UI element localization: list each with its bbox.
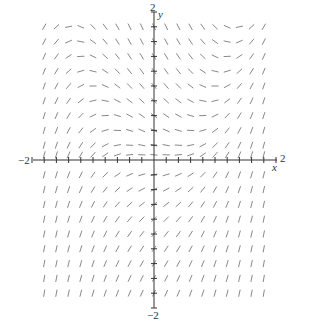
- y-axis-min-label: −2: [147, 310, 159, 321]
- slope-segment: [68, 201, 70, 208]
- slope-segment: [65, 26, 72, 27]
- slope-segment: [251, 260, 252, 267]
- slope-segment: [126, 129, 133, 131]
- slope-segment: [189, 216, 193, 222]
- slope-segment: [176, 202, 181, 207]
- slope-segment: [43, 83, 45, 90]
- slope-segment: [224, 84, 230, 87]
- slope-segment: [263, 127, 265, 134]
- slope-segment: [103, 24, 107, 30]
- slope-segment: [56, 216, 58, 223]
- slope-segment: [56, 290, 57, 297]
- slope-segment: [92, 260, 94, 267]
- x-axis-max-label: 2: [280, 153, 286, 164]
- slope-segment: [116, 231, 120, 237]
- slope-segment: [139, 114, 145, 118]
- slope-segment: [212, 128, 218, 132]
- slope-segment: [43, 201, 45, 208]
- slope-segment: [102, 129, 109, 131]
- slope-segment: [188, 84, 194, 88]
- slope-segment: [114, 173, 120, 177]
- slope-segment: [68, 216, 70, 223]
- slope-segment: [139, 98, 144, 103]
- slope-segment: [79, 152, 83, 158]
- slope-segment: [188, 54, 192, 60]
- slope-segment: [78, 99, 84, 103]
- slope-segment: [116, 260, 119, 267]
- slope-segment: [103, 39, 108, 44]
- slope-segment: [250, 68, 254, 74]
- slope-segment: [79, 201, 82, 208]
- slope-segment: [66, 69, 71, 74]
- slope-segment: [90, 39, 96, 43]
- slope-segment: [103, 201, 107, 207]
- slope-segment: [165, 275, 168, 281]
- slope-segment: [250, 83, 253, 89]
- slope-segment: [127, 216, 132, 221]
- slope-segment: [68, 275, 70, 282]
- slope-segment: [237, 83, 242, 88]
- slope-segment: [67, 127, 70, 133]
- slope-segment: [213, 187, 217, 193]
- slope-segment: [177, 290, 180, 297]
- slope-segment: [176, 68, 180, 74]
- slope-segment: [188, 202, 193, 207]
- slope-segment: [214, 245, 217, 252]
- slope-segment: [104, 246, 107, 253]
- slope-segment: [43, 186, 45, 193]
- slope-segment: [90, 100, 97, 102]
- slope-segment: [92, 216, 95, 223]
- slope-segment: [251, 245, 253, 252]
- slope-segment: [263, 186, 265, 193]
- slope-segment: [202, 275, 204, 282]
- slope-segment: [128, 24, 131, 30]
- slope-segment: [91, 152, 96, 157]
- slope-segment: [224, 70, 231, 72]
- slope-segment: [103, 216, 107, 222]
- slope-segment: [175, 114, 181, 117]
- slope-segment: [92, 245, 95, 252]
- slope-segment: [56, 230, 58, 237]
- slope-segment: [140, 260, 144, 266]
- slope-segment: [237, 69, 242, 74]
- slope-segment: [200, 54, 205, 59]
- slope-segment: [225, 113, 230, 118]
- slope-segment: [68, 245, 70, 252]
- slope-segment: [239, 260, 241, 267]
- slope-segment: [55, 83, 58, 89]
- slope-segment: [54, 53, 58, 59]
- slope-segment: [114, 154, 121, 156]
- slope-segment: [164, 68, 168, 74]
- slope-segment: [116, 290, 119, 297]
- slope-segment: [163, 129, 170, 132]
- slope-segment: [79, 142, 83, 148]
- slope-segment: [249, 39, 254, 44]
- slope-segment: [239, 275, 241, 282]
- slope-segment: [102, 153, 108, 157]
- slope-segment: [263, 260, 264, 267]
- slope-segment: [114, 99, 120, 102]
- slope-segment: [226, 201, 229, 208]
- slope-segment: [225, 152, 229, 158]
- slope-segment: [140, 275, 143, 281]
- slope-segment: [78, 84, 84, 87]
- slope-segment: [115, 216, 119, 222]
- slope-segment: [127, 188, 133, 192]
- slope-segment: [92, 275, 94, 282]
- slope-segment: [189, 246, 192, 252]
- slope-segment: [201, 24, 205, 30]
- slope-segment: [116, 246, 119, 252]
- slope-segment: [66, 54, 72, 58]
- slope-segment: [187, 154, 194, 156]
- slope-segment: [78, 25, 85, 28]
- slope-segment: [200, 85, 207, 88]
- slope-segment: [103, 54, 108, 59]
- slope-segment: [226, 172, 229, 178]
- slope-segment: [139, 83, 144, 88]
- slope-segment: [43, 53, 46, 60]
- slope-segment: [163, 174, 170, 176]
- slope-segment: [54, 24, 59, 29]
- slope-segment: [201, 201, 205, 207]
- slope-segment: [56, 245, 58, 252]
- slope-segment: [226, 216, 228, 223]
